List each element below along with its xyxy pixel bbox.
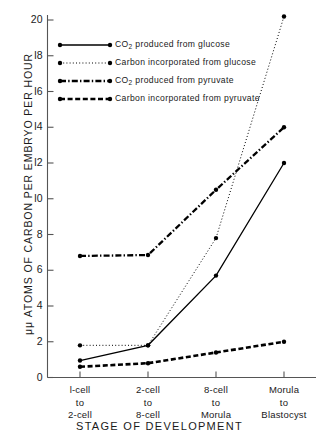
x-tick-label: 8-celltoMorula (178, 384, 254, 422)
data-series (78, 161, 286, 363)
legend-item: CO2 produced from glucose (57, 36, 307, 54)
x-tick-label-line: to (42, 397, 118, 410)
x-tick-label-line: 8-cell (178, 384, 254, 397)
x-tick-label-line: Morula (246, 384, 319, 397)
chart-legend: CO2 produced from glucoseCarbon incorpor… (57, 36, 307, 108)
legend-item: Carbon incorporated from pyruvate (57, 90, 307, 108)
x-axis-title: STAGE OF DEVELOPMENT (0, 420, 319, 432)
x-tick-label-line: to (110, 397, 186, 410)
legend-line-sample (57, 72, 113, 90)
x-tick-label-line: l-cell (42, 384, 118, 397)
x-tick-label: MorulatoBlastocyst (246, 384, 319, 422)
legend-label: CO2 produced from glucose (115, 39, 230, 49)
x-tick-label: 2-cellto8-cell (110, 384, 186, 422)
legend-item: CO2 produced from pyruvate (57, 72, 307, 90)
legend-line-sample (57, 90, 113, 108)
legend-item: Carbon incorporated from glucose (57, 54, 307, 72)
x-tick-label-line: 2-cell (110, 384, 186, 397)
x-tick-label-line: to (178, 397, 254, 410)
x-axis-ticks (80, 372, 284, 378)
legend-line-sample (57, 54, 113, 72)
y-axis-ticks (48, 20, 54, 378)
legend-label: Carbon incorporated from glucose (115, 57, 256, 67)
legend-line-sample (57, 36, 113, 54)
legend-label: CO2 produced from pyruvate (115, 75, 234, 85)
x-tick-label-line: to (246, 397, 319, 410)
legend-label: Carbon incorporated from pyruvate (115, 93, 260, 103)
chart-figure: μμ ATOMS OF CARBON PER EMBRYO PER HOUR 0… (0, 0, 319, 439)
x-tick-label: l-cellto2-cell (42, 384, 118, 422)
data-series (78, 125, 286, 258)
